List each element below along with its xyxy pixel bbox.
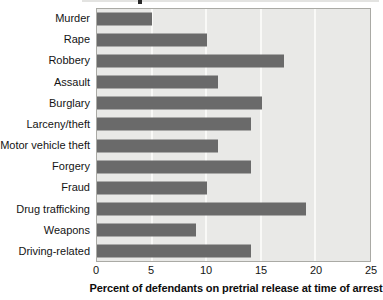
chart-row: Motor vehicle theft [0,135,371,156]
category-label: Robbery [0,55,96,66]
category-label: Forgery [0,161,96,172]
chart-row: Drug trafficking [0,199,371,220]
bar-murder [97,12,152,25]
bar-assault [97,76,218,89]
bar-track [96,93,371,114]
bar-larceny-theft [97,118,251,131]
bar-track [96,135,371,156]
bar-track [96,29,371,50]
cropped-content-streak [82,0,379,2]
bar-rape [97,33,207,46]
bar-track [96,220,371,241]
x-tick-label-20: 20 [310,264,322,276]
bar-weapons [97,224,196,237]
category-label: Rape [0,34,96,45]
chart-row: Burglary [0,93,371,114]
category-label: Burglary [0,98,96,109]
category-label: Drug trafficking [0,204,96,215]
category-label: Assault [0,77,96,88]
bar-burglary [97,97,262,110]
x-tick-label-5: 5 [148,264,154,276]
bar-motor-vehicle-theft [97,139,218,152]
chart-row: Driving-related [0,241,371,262]
bar-forgery [97,160,251,173]
chart-row: Larceny/theft [0,114,371,135]
x-tick-label-15: 15 [255,264,267,276]
category-label: Murder [0,13,96,24]
x-axis-title: Percent of defendants on pretrial releas… [89,282,382,294]
bar-track [96,199,371,220]
bar-track [96,241,371,262]
bar-track [96,177,371,198]
chart-row: Forgery [0,156,371,177]
category-label: Larceny/theft [0,119,96,130]
bar-track [96,114,371,135]
category-label: Driving-related [0,246,96,257]
chart-row: Fraud [0,177,371,198]
category-label: Motor vehicle theft [0,140,96,151]
x-tick-label-0: 0 [93,264,99,276]
category-label: Weapons [0,225,96,236]
bar-track [96,156,371,177]
category-label: Fraud [0,182,96,193]
bar-track [96,8,371,29]
chart-row: Assault [0,72,371,93]
bar-robbery [97,54,284,67]
chart-row: Robbery [0,50,371,71]
x-tick-label-10: 10 [200,264,212,276]
cropped-title-fragment [138,0,142,4]
x-tick-label-25: 25 [365,264,377,276]
bar-track [96,72,371,93]
chart-row: Murder [0,8,371,29]
x-axis-ticks: 0510152025 [96,264,371,276]
bar-track [96,50,371,71]
bar-fraud [97,181,207,194]
chart-rows: MurderRapeRobberyAssaultBurglaryLarceny/… [0,8,371,262]
chart-row: Weapons [0,220,371,241]
chart-row: Rape [0,29,371,50]
bar-drug-trafficking [97,203,306,216]
bar-driving-related [97,245,251,258]
